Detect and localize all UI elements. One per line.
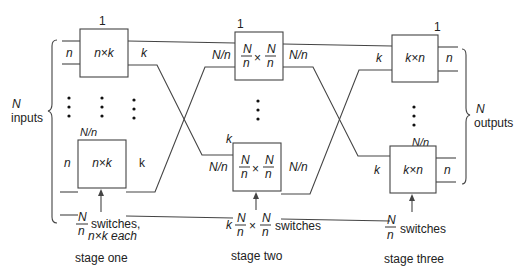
inputs-label: inputs — [11, 111, 43, 125]
outputs-label: outputs — [474, 116, 513, 130]
stage-two-input-label-top: N/n — [212, 48, 231, 62]
output-brace — [462, 49, 470, 184]
stage-three-input-label-bottom: k — [374, 163, 381, 177]
stage-one-output-label-top: k — [141, 46, 148, 60]
stage-three-output-label-top: n — [446, 51, 453, 65]
svg-text:N: N — [241, 153, 250, 167]
stage-one-label: stage one — [75, 251, 128, 265]
ellipsis-dots — [67, 96, 135, 119]
stage-one-count-denominator: n — [78, 224, 85, 238]
stage-two-count: k N n × N n switches — [226, 211, 321, 239]
svg-text:×: × — [249, 219, 256, 233]
svg-text:N: N — [243, 42, 252, 56]
stage-three-box-label-top: k×n — [405, 51, 425, 65]
ellipsis-dots — [256, 99, 259, 120]
stage-one-box-label-top: n×k — [94, 46, 115, 60]
stage-three-input-label-top: k — [376, 51, 383, 65]
outputs-count-label: N — [476, 102, 485, 116]
arrowhead-icon — [253, 192, 259, 199]
stage-three-top-index: 1 — [434, 20, 441, 34]
svg-text:k: k — [226, 218, 233, 232]
stage-two-top-index: 1 — [237, 17, 244, 31]
stage-one-count-numerator: N — [78, 210, 87, 224]
svg-text:n: n — [262, 225, 269, 239]
svg-text:n: n — [241, 167, 248, 181]
svg-text:N: N — [265, 153, 274, 167]
stage-one-input-label-bottom: n — [64, 156, 71, 170]
stage-three-box-label-bottom: k×n — [403, 163, 423, 177]
stage-two-input-label-bottom: N/n — [209, 160, 228, 174]
inputs-count-label: N — [12, 97, 21, 111]
svg-text:×: × — [254, 51, 261, 65]
svg-text:N: N — [237, 211, 246, 225]
stage-two: 1 N/n N n × N n N/n k N/n N n × N n N/n — [209, 17, 321, 263]
stage-three-count-text: switches — [400, 222, 446, 236]
svg-text:n: n — [267, 56, 274, 70]
stage-one-bottom-index: N/n — [80, 126, 97, 138]
svg-text:switches: switches — [275, 219, 321, 233]
stage-one-count-text2: n×k each — [88, 229, 137, 243]
stage-two-output-label-bottom: N/n — [289, 160, 308, 174]
svg-text:n: n — [243, 56, 250, 70]
svg-text:n: n — [237, 225, 244, 239]
stage-one: 1 n n×k k N/n n n×k k N n switches, n×k … — [64, 14, 148, 265]
stage-three-label: stage three — [384, 252, 444, 266]
stage-one-output-label-bottom: k — [139, 156, 146, 170]
svg-text:n: n — [265, 167, 272, 181]
arrowhead-icon — [409, 194, 415, 201]
stage-three: 1 k k×n n N/n k k×n n N n switches stage… — [374, 20, 453, 266]
stage-three-output-label-bottom: n — [444, 163, 451, 177]
clos-network-diagram: 1 n n×k k N/n n n×k k N n switches, n×k … — [0, 0, 522, 273]
ellipsis-dots — [412, 105, 415, 126]
stage-one-top-index: 1 — [99, 14, 106, 28]
stage-two-label: stage two — [231, 249, 283, 263]
svg-text:N: N — [267, 42, 276, 56]
svg-text:×: × — [252, 162, 259, 176]
arrowhead-icon — [98, 189, 104, 196]
stage-one-input-label-top: n — [66, 46, 73, 60]
stage-two-output-label-top: N/n — [289, 48, 308, 62]
stage-two-bottom-index: k — [226, 132, 233, 146]
stage-three-count-denominator: n — [387, 228, 394, 242]
stage-one-box-label-bottom: n×k — [92, 156, 113, 170]
stage-three-count-numerator: N — [387, 213, 396, 227]
input-brace — [48, 40, 57, 223]
svg-text:N: N — [262, 211, 271, 225]
